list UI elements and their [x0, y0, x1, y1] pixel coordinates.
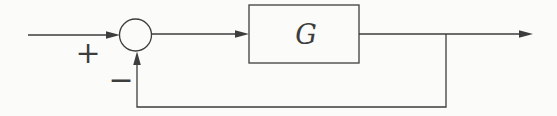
feedback-arrowhead-icon — [133, 52, 141, 66]
output-arrowhead-icon — [519, 30, 533, 38]
block-input-arrowhead-icon — [235, 30, 249, 38]
block-diagram: + G − — [0, 0, 557, 116]
plus-sign-label: + — [75, 35, 100, 70]
input-arrowhead-icon — [106, 31, 120, 39]
process-block-label: G — [295, 19, 317, 50]
feedback-path-line — [137, 34, 446, 107]
feedback-loop-diagram: + G − — [0, 0, 557, 116]
minus-sign-label: − — [108, 62, 133, 97]
summing-junction-circle — [120, 19, 152, 51]
